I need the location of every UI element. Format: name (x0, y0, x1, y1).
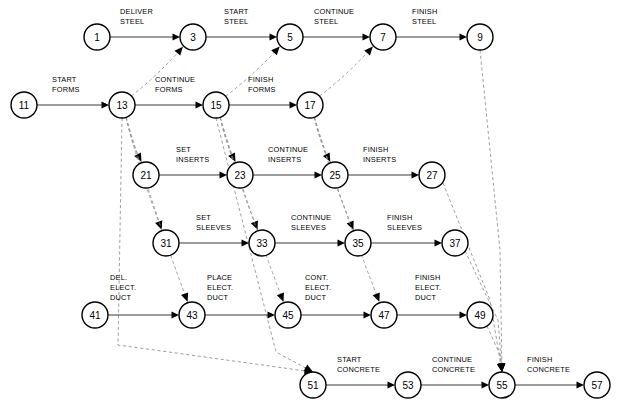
activity-label-51-53: STARTCONCRETE (337, 355, 380, 374)
event-node-7[interactable]: 7 (370, 24, 396, 50)
event-node-33[interactable]: 33 (249, 230, 275, 256)
event-node-3[interactable]: 3 (180, 24, 206, 50)
event-node-label: 57 (591, 380, 603, 391)
event-node-5[interactable]: 5 (277, 24, 303, 50)
activity-label-55-57: FINISHCONCRETE (527, 355, 570, 374)
event-node-35[interactable]: 35 (345, 230, 371, 256)
event-node-label: 43 (186, 310, 198, 321)
network-diagram: DELIVERSTEELSTARTSTEELCONTINUESTEELFINIS… (0, 0, 623, 409)
dependency-arrowhead (373, 292, 380, 301)
event-node-43[interactable]: 43 (179, 302, 205, 328)
event-node-label: 3 (190, 32, 196, 43)
activity-label-53-55: CONTINUECONCRETE (432, 355, 475, 374)
event-node-51[interactable]: 51 (300, 372, 326, 398)
activity-arrowhead (577, 382, 585, 389)
activity-arrowhead (270, 34, 278, 41)
event-node-53[interactable]: 53 (395, 372, 421, 398)
activity-arrowhead (388, 382, 396, 389)
event-node-label: 47 (378, 310, 390, 321)
activity-label-11-13: STARTFORMS (52, 75, 80, 94)
activity-arrowhead (172, 312, 180, 319)
event-node-label: 53 (402, 380, 414, 391)
event-node-label: 45 (282, 310, 294, 321)
event-node-45[interactable]: 45 (275, 302, 301, 328)
event-node-27[interactable]: 27 (419, 162, 445, 188)
event-node-31[interactable]: 31 (153, 230, 179, 256)
activity-arrowhead (482, 382, 490, 389)
event-node-23[interactable]: 23 (227, 162, 253, 188)
activity-label-15-17: FINISHFORMS (248, 75, 276, 94)
activity-arrowhead (460, 34, 468, 41)
dependency-17-7 (320, 47, 373, 97)
event-node-9[interactable]: 9 (467, 24, 493, 50)
dependency-arrowhead (277, 292, 284, 301)
activity-arrowhead (315, 172, 323, 179)
activity-label-41-43: DEL.ELECT.DUCT (110, 273, 136, 302)
event-node-label: 17 (304, 100, 316, 111)
event-nodes-layer: 1357911131517212325273133353741434547495… (11, 24, 610, 398)
event-node-label: 23 (234, 170, 246, 181)
event-node-13[interactable]: 13 (109, 92, 135, 118)
event-node-11[interactable]: 11 (11, 92, 37, 118)
event-node-41[interactable]: 41 (82, 302, 108, 328)
event-node-label: 55 (496, 380, 508, 391)
dependency-line (320, 47, 373, 97)
event-node-25[interactable]: 25 (322, 162, 348, 188)
activity-arrowhead (220, 172, 228, 179)
activity-arrowhead (102, 102, 110, 109)
activity-arrowhead (173, 34, 181, 41)
event-node-label: 15 (210, 100, 222, 111)
activity-label-13-15: CONTINUEFORMS (155, 75, 195, 94)
event-node-label: 25 (329, 170, 341, 181)
activity-label-21-23: SETINSERTS (176, 145, 209, 164)
event-node-37[interactable]: 37 (442, 230, 468, 256)
event-node-label: 7 (380, 32, 386, 43)
activity-label-23-25: CONTINUEINSERTS (268, 145, 308, 164)
activity-label-47-49: FINISHELECT.DUCT (415, 273, 441, 302)
event-node-15[interactable]: 15 (203, 92, 229, 118)
event-node-label: 27 (426, 170, 438, 181)
event-node-47[interactable]: 47 (371, 302, 397, 328)
dependency-arrowhead (181, 292, 188, 301)
activity-arrowhead (364, 312, 372, 319)
activity-label-43-45: PLACEELECT.DUCT (207, 273, 233, 302)
activity-arrowhead (242, 240, 250, 247)
event-node-label: 35 (352, 238, 364, 249)
activity-arrowhead (196, 102, 204, 109)
activity-arrowhead (460, 312, 468, 319)
dependency-line (443, 183, 502, 372)
event-node-label: 1 (94, 32, 100, 43)
event-node-17[interactable]: 17 (297, 92, 323, 118)
activity-arrowhead (412, 172, 420, 179)
activity-label-1-3: DELIVERSTEEL (120, 7, 153, 26)
activity-label-31-33: SETSLEEVES (196, 213, 231, 232)
activity-label-33-35: CONTINUESLEEVES (291, 213, 331, 232)
event-node-label: 33 (256, 238, 268, 249)
event-node-57[interactable]: 57 (584, 372, 610, 398)
activity-label-45-47: CONT.ELECT.DUCT (305, 273, 331, 302)
activity-arrowhead (338, 240, 346, 247)
activity-label-3-5: STARTSTEEL (224, 7, 249, 26)
event-node-label: 51 (307, 380, 319, 391)
activity-label-7-9: FINISHSTEEL (412, 7, 437, 26)
event-node-label: 41 (89, 310, 101, 321)
event-node-label: 21 (140, 170, 152, 181)
activity-arrowhead (435, 240, 443, 247)
activity-edges-layer (37, 34, 584, 389)
event-node-label: 49 (474, 310, 486, 321)
event-node-label: 13 (116, 100, 128, 111)
dependency-arrowhead (271, 46, 280, 55)
event-node-label: 5 (287, 32, 293, 43)
activity-label-35-37: FINISHSLEEVES (387, 213, 422, 232)
network-diagram-canvas: DELIVERSTEELSTARTSTEELCONTINUESTEELFINIS… (0, 0, 623, 409)
event-node-label: 31 (160, 238, 172, 249)
dependency-27-55 (443, 183, 502, 372)
event-node-21[interactable]: 21 (133, 162, 159, 188)
event-node-55[interactable]: 55 (489, 372, 515, 398)
dependency-arrowhead (364, 47, 372, 56)
activity-label-5-7: CONTINUESTEEL (314, 7, 354, 26)
event-node-1[interactable]: 1 (84, 24, 110, 50)
event-node-49[interactable]: 49 (467, 302, 493, 328)
activity-label-25-27: FINISHINSERTS (363, 145, 396, 164)
activity-arrowhead (290, 102, 298, 109)
